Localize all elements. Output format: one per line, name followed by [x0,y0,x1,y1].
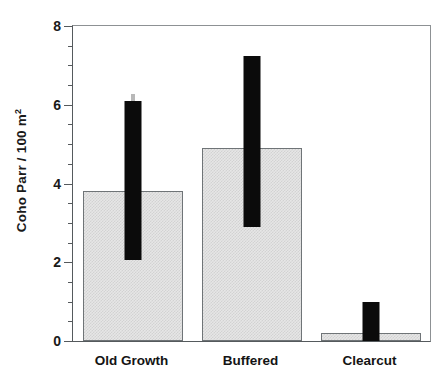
y-tick-minor [68,65,74,66]
x-axis-label-buffered: Buffered [223,353,279,368]
y-axis-title-superscript: 2 [13,108,23,113]
x-axis-label-clearcut: Clearcut [342,353,396,368]
error-bar-cap [131,94,135,101]
y-tick-label: 6 [53,97,61,113]
y-tick-major [64,262,73,263]
y-tick-label: 2 [53,254,61,270]
y-tick-major [64,105,73,106]
y-tick-label: 4 [53,176,61,192]
error-bar-clearcut [362,302,379,341]
y-tick-minor [68,243,74,244]
error-bar-old-growth [124,101,141,260]
plot-area: 02468 [72,25,431,342]
y-tick-major [64,184,73,185]
y-tick-minor [68,203,74,204]
y-tick-major [64,26,73,27]
y-tick-minor [68,282,74,283]
y-tick-minor [68,124,74,125]
y-axis-title-text: Coho Parr / 100 m2 [15,108,30,231]
y-tick-minor [68,46,74,47]
x-axis-label-old-growth: Old Growth [95,353,169,368]
y-tick-major [64,341,73,342]
y-tick-label: 0 [53,333,61,349]
y-axis-title: Coho Parr / 100 m2 [0,0,44,340]
y-axis-title-main: Coho Parr / 100 m [15,114,30,232]
y-tick-minor [68,302,74,303]
error-bar-buffered [243,56,260,227]
y-tick-minor [68,164,74,165]
y-tick-minor [68,85,74,86]
y-tick-label: 8 [53,18,61,34]
chart-figure: Coho Parr / 100 m2 02468 Old GrowthBuffe… [0,0,447,389]
y-tick-minor [68,144,74,145]
y-tick-minor [68,223,74,224]
y-tick-minor [68,321,74,322]
